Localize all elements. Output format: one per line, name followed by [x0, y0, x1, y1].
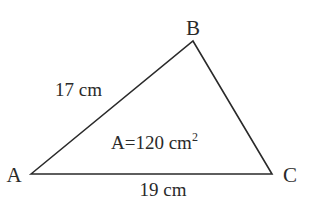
side-label-ac: 19 cm [140, 179, 187, 200]
area-label: A=120 cm2 [111, 130, 198, 153]
side-label-ab: 17 cm [55, 79, 102, 100]
triangle-abc [31, 41, 272, 174]
area-label-superscript: 2 [192, 130, 198, 144]
vertex-label-a: A [6, 163, 22, 187]
area-label-text: A=120 cm [111, 132, 192, 153]
triangle-diagram: B A C 17 cm 19 cm A=120 cm2 [0, 0, 309, 207]
vertex-label-b: B [186, 16, 200, 40]
vertex-label-c: C [283, 163, 297, 187]
